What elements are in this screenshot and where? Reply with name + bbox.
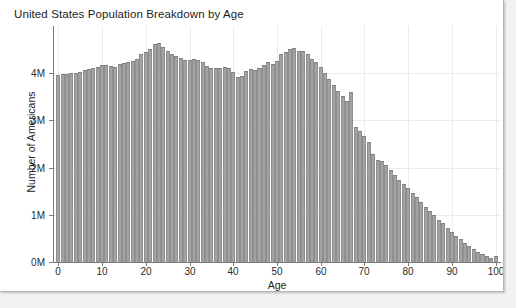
- x-tick-label: 10: [96, 266, 107, 277]
- y-axis-line: [53, 26, 54, 263]
- x-axis-title: Age: [54, 279, 500, 291]
- x-tick-label: 90: [446, 266, 457, 277]
- plot-area: [54, 26, 500, 262]
- chart-panel: United States Population Breakdown by Ag…: [0, 0, 504, 292]
- bar-series: [54, 26, 500, 262]
- x-tick-label: 50: [271, 266, 282, 277]
- x-tick-label: 0: [55, 266, 61, 277]
- x-tick-label: 70: [358, 266, 369, 277]
- x-tick-label: 100: [488, 266, 504, 277]
- screenshot-root: United States Population Breakdown by Ag…: [0, 0, 516, 308]
- x-tick-label: 60: [315, 266, 326, 277]
- y-tick-label: 0M: [31, 257, 45, 268]
- x-tick-label: 80: [402, 266, 413, 277]
- y-axis-title-wrap: Number of Americans: [8, 26, 24, 262]
- x-tick-label: 20: [140, 266, 151, 277]
- x-tick-label: 30: [184, 266, 195, 277]
- x-tick-label: 40: [227, 266, 238, 277]
- y-axis-title: Number of Americans: [25, 67, 37, 217]
